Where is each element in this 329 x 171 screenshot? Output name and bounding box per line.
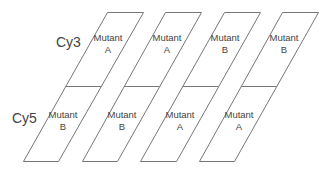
slide-4-bottom-label: MutantA bbox=[219, 109, 259, 133]
slide-3-bottom-label: MutantA bbox=[160, 109, 200, 133]
row-label-cy5: Cy5 bbox=[12, 110, 37, 126]
slide-4-top-label: MutantB bbox=[264, 32, 304, 56]
slides-diagram bbox=[0, 0, 329, 171]
slide-1-top-label: MutantA bbox=[88, 32, 128, 56]
slide-2-bottom-label: MutantB bbox=[102, 109, 142, 133]
slide-3-top-label: MutantB bbox=[205, 32, 245, 56]
slide-2-top-label: MutantA bbox=[147, 32, 187, 56]
row-label-cy3: Cy3 bbox=[56, 34, 81, 50]
slide-1-bottom-label: MutantB bbox=[43, 109, 83, 133]
